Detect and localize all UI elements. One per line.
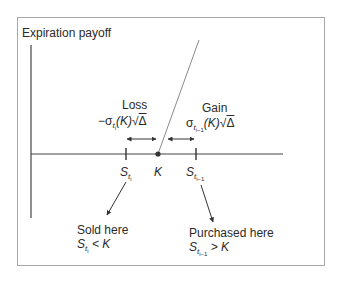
k-label: K <box>154 165 162 179</box>
loss-formula: −σti(K)√Δ <box>98 114 147 135</box>
sold-here-label: Sold here <box>77 223 128 237</box>
s-ti1-label: Sti−1 <box>186 165 204 186</box>
gain-label: Gain <box>202 101 227 115</box>
purchased-condition: Sti−1 > K <box>189 240 229 261</box>
payoff-diagram <box>0 0 343 284</box>
s-ti-label: Sti <box>120 165 132 186</box>
gain-formula: σti−1(K)√Δ <box>186 116 234 137</box>
sold-pointer-arrow <box>107 182 126 215</box>
sold-condition: Sti < K <box>77 237 110 258</box>
loss-label: Loss <box>122 98 147 112</box>
purchased-here-label: Purchased here <box>189 226 274 240</box>
diagram-title: Expiration payoff <box>22 26 111 40</box>
strike-dot <box>155 151 160 156</box>
purchased-pointer-arrow <box>201 185 213 222</box>
